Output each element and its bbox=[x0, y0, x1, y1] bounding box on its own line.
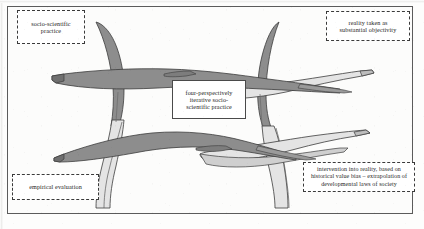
label-line: iterative socio- bbox=[183, 96, 234, 103]
label-line: substantial objectivity bbox=[338, 26, 399, 33]
lower-right-vertical-sheet bbox=[262, 126, 288, 208]
figure-root: socio-scientific practice reality taken … bbox=[0, 0, 424, 229]
four-perspectively-iterative-label[interactable]: four-perspectively iterative socio- scie… bbox=[172, 80, 246, 119]
upper-wing-dark-left-edge bbox=[52, 74, 64, 83]
label-line: empirical evaluation bbox=[27, 183, 84, 190]
lower-left-vertical-sheet bbox=[96, 120, 124, 208]
label-line: intervention into reality, based on bbox=[309, 166, 409, 173]
label-line: developmental laws of society bbox=[309, 181, 409, 188]
label-line: four-perspectively bbox=[183, 89, 234, 96]
label-line: practice bbox=[29, 27, 72, 34]
label-line: scientific practice bbox=[183, 103, 234, 110]
reality-objectivity-label[interactable]: reality taken as substantial objectivity bbox=[326, 11, 410, 41]
upper-right-vertical-sheet bbox=[258, 22, 279, 130]
empirical-evaluation-label[interactable]: empirical evaluation bbox=[12, 174, 99, 200]
socio-scientific-practice-label[interactable]: socio-scientific practice bbox=[17, 10, 85, 44]
label-line: historical value bias – extrapolation of bbox=[309, 173, 409, 180]
label-line: socio-scientific bbox=[29, 20, 72, 27]
intervention-into-reality-label[interactable]: intervention into reality, based on hist… bbox=[303, 162, 415, 192]
label-line: reality taken as bbox=[338, 19, 399, 26]
upper-wing-light-edge bbox=[360, 70, 374, 76]
upper-wing-dark-right-tail bbox=[298, 84, 352, 93]
